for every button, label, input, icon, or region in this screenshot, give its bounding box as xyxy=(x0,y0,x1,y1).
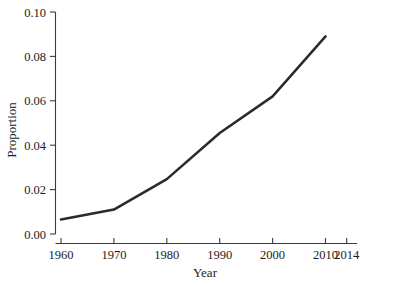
y-tick-label: 0.00 xyxy=(24,228,46,242)
x-axis-title: Year xyxy=(193,265,218,280)
chart-background xyxy=(0,0,401,285)
x-tick-label: 1970 xyxy=(101,248,126,262)
y-axis-title: Proportion xyxy=(4,102,19,158)
y-tick-label: 0.10 xyxy=(24,6,46,20)
y-tick-label: 0.02 xyxy=(24,183,46,197)
y-tick-label: 0.04 xyxy=(24,139,47,153)
x-tick-label: 2014 xyxy=(334,248,360,262)
x-tick-label: 1960 xyxy=(49,248,74,262)
chart-figure: 0.10 0.08 0.06 0.04 0.02 0.00 1960 1970 … xyxy=(0,0,401,285)
x-tick-label: 1980 xyxy=(154,248,179,262)
x-tick-label: 1990 xyxy=(207,248,232,262)
y-tick-label: 0.08 xyxy=(24,50,46,64)
x-tick-label: 2000 xyxy=(260,248,285,262)
line-chart: 0.10 0.08 0.06 0.04 0.02 0.00 1960 1970 … xyxy=(0,0,401,285)
y-tick-label: 0.06 xyxy=(24,94,46,108)
